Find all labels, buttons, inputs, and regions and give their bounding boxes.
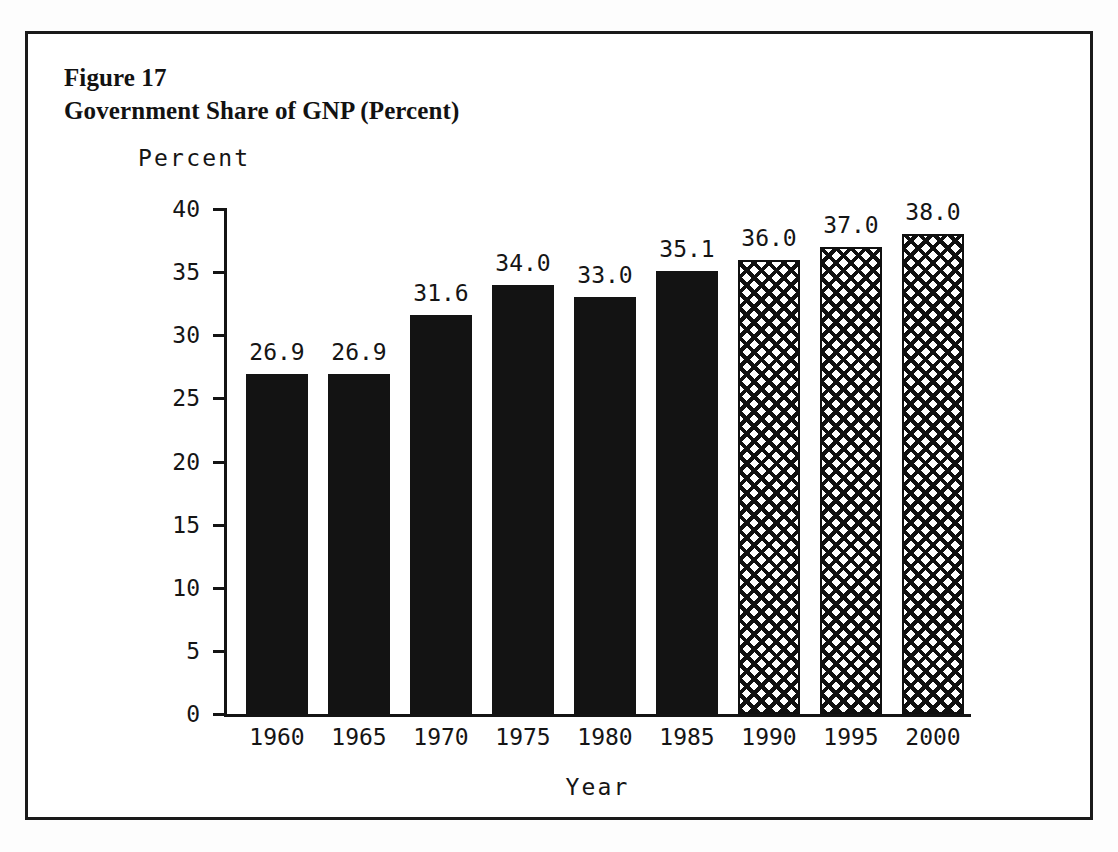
y-axis-tick — [213, 587, 227, 590]
bar-value-label-1970: 31.6 — [396, 282, 486, 305]
y-axis-tick-label: 35 — [148, 261, 200, 284]
x-axis-tick-label-1995: 1995 — [806, 726, 896, 749]
figure-border: Figure 17 Government Share of GNP (Perce… — [25, 31, 1093, 820]
chart-plot-area: Percent 0510152025303540 26.926.931.634.… — [28, 34, 1090, 817]
y-axis-title: Percent — [138, 145, 250, 171]
y-axis-tick — [213, 524, 227, 527]
bar-1985 — [656, 271, 718, 714]
y-axis-tick — [213, 397, 227, 400]
y-axis-tick — [213, 461, 227, 464]
x-axis-tick-label-1985: 1985 — [642, 726, 732, 749]
y-axis-tick — [213, 334, 227, 337]
bar-1970 — [410, 315, 472, 714]
x-axis-tick-label-1960: 1960 — [232, 726, 322, 749]
y-axis-tick-label: 15 — [148, 514, 200, 537]
y-axis-tick-label: 0 — [148, 703, 200, 726]
bar-1995 — [820, 247, 882, 714]
y-axis-tick — [213, 713, 227, 716]
bar-value-label-1995: 37.0 — [806, 214, 896, 237]
y-axis-tick — [213, 650, 227, 653]
y-axis-tick-label: 25 — [148, 387, 200, 410]
x-axis-tick-label-1965: 1965 — [314, 726, 404, 749]
y-axis-tick-label: 30 — [148, 324, 200, 347]
bar-value-label-1965: 26.9 — [314, 341, 404, 364]
x-axis-tick-label-2000: 2000 — [888, 726, 978, 749]
bar-value-label-1980: 33.0 — [560, 264, 650, 287]
x-axis-tick-label-1975: 1975 — [478, 726, 568, 749]
bar-value-label-1975: 34.0 — [478, 252, 568, 275]
y-axis-tick-label: 20 — [148, 451, 200, 474]
document-page: Figure 17 Government Share of GNP (Perce… — [0, 0, 1118, 852]
y-axis-tick-label: 40 — [148, 198, 200, 221]
bar-2000 — [902, 234, 964, 714]
y-axis-tick-label: 5 — [148, 640, 200, 663]
bar-1965 — [328, 374, 390, 714]
bar-value-label-2000: 38.0 — [888, 201, 978, 224]
bar-1990 — [738, 260, 800, 715]
x-axis-tick-label-1980: 1980 — [560, 726, 650, 749]
bar-1980 — [574, 297, 636, 714]
bar-value-label-1960: 26.9 — [232, 341, 322, 364]
bar-1975 — [492, 285, 554, 714]
x-axis-line — [224, 714, 971, 717]
x-axis-title: Year — [224, 774, 971, 800]
x-axis-tick-label-1970: 1970 — [396, 726, 486, 749]
y-axis-tick-label: 10 — [148, 577, 200, 600]
bar-value-label-1990: 36.0 — [724, 227, 814, 250]
x-axis-tick-label-1990: 1990 — [724, 726, 814, 749]
y-axis-tick — [213, 271, 227, 274]
y-axis-tick — [213, 208, 227, 211]
bar-1960 — [246, 374, 308, 714]
bar-value-label-1985: 35.1 — [642, 238, 732, 261]
